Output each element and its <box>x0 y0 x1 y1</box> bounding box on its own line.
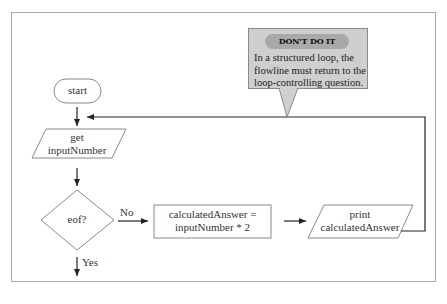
no-label: No <box>120 206 140 219</box>
yes-label: Yes <box>82 256 112 269</box>
process-label-line1: calculatedAnswer = <box>154 208 271 221</box>
input-label-line2: inputNumber <box>37 144 117 157</box>
process-label-line2: inputNumber * 2 <box>154 221 271 234</box>
output-label-line2: calculatedAnswer <box>310 221 410 234</box>
callout-title: DON'T DO IT <box>265 34 349 49</box>
start-label: start <box>54 84 101 97</box>
input-label-line1: get <box>37 131 117 144</box>
output-label-line1: print <box>310 208 410 221</box>
decision-label: eof? <box>47 213 107 226</box>
callout-tail-join <box>280 87 297 89</box>
callout-text: In a structured loop, the flowline must … <box>254 52 369 90</box>
dont-do-it-callout: DON'T DO IT In a structured loop, the fl… <box>248 28 368 89</box>
callout-pointer <box>279 88 298 117</box>
